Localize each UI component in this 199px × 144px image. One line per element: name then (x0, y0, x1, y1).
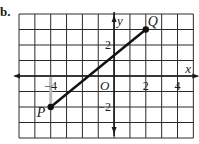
origin-label: O (100, 78, 110, 93)
x-tick-label: −4 (44, 79, 57, 93)
point-P (48, 104, 54, 110)
y-tick-label: 2 (105, 38, 111, 52)
y-tick-label: −2 (98, 100, 111, 114)
x-axis-arrow-right-icon (192, 74, 199, 79)
y-axis-arrow-up-icon (112, 15, 117, 22)
y-axis-label: y (115, 13, 123, 28)
coordinate-plane: b. −4242−2 x y O PQ (0, 0, 199, 144)
point-label-Q: Q (148, 14, 158, 29)
point-label-P: P (36, 105, 46, 120)
x-axis-arrow-left-icon (13, 74, 20, 79)
x-tick-label: 4 (175, 79, 181, 93)
part-label: b. (0, 4, 10, 19)
x-axis-label: x (184, 61, 191, 76)
x-tick-label: 2 (143, 79, 149, 93)
y-axis-arrow-down-icon (112, 127, 117, 134)
